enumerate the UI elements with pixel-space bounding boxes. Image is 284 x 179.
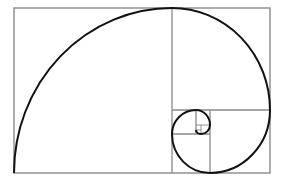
diagram-canvas [0,0,284,179]
golden-spiral-diagram [0,0,284,179]
golden-spiral-curve [14,8,270,173]
golden-rectangle-subdivisions [172,8,270,173]
outer-rectangle [14,8,270,173]
